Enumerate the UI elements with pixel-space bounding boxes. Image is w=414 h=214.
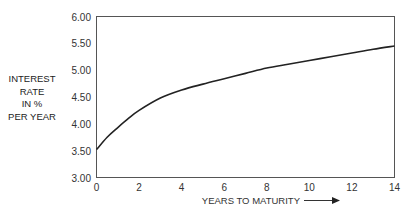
y-tick-label: 3.50 [72,146,92,157]
y-tick-label: 4.00 [72,119,92,130]
chart: 6.005.505.004.504.003.503.00 02468101214… [0,0,414,214]
arrow-right-icon [304,197,340,204]
x-tick-label: 0 [94,182,100,193]
x-tick-label: 14 [389,182,401,193]
x-tick-label: 12 [346,182,358,193]
x-tick-label: 10 [304,182,316,193]
yield-curve-line [97,46,395,150]
x-tick-label: 2 [136,182,142,193]
x-tick-label: 8 [264,182,270,193]
y-tick-label: 3.00 [72,173,92,184]
y-tick-label: 5.00 [72,65,92,76]
x-axis-ticks: 02468101214 [94,182,401,193]
x-tick-label: 4 [179,182,185,193]
x-axis-title: YEARS TO MATURITY [202,195,301,206]
y-axis-ticks: 6.005.505.004.504.003.503.00 [72,12,92,184]
x-tick-label: 6 [221,182,227,193]
plot-frame [97,17,395,178]
y-tick-label: 5.50 [72,38,92,49]
y-tick-label: 6.00 [72,12,92,23]
y-tick-label: 4.50 [72,92,92,103]
